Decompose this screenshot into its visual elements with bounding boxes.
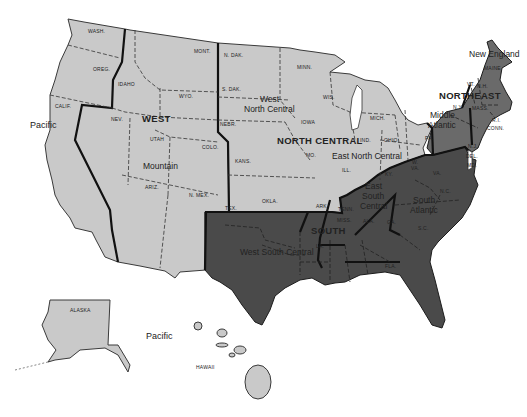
state-mo: MO. <box>306 153 316 158</box>
state-vt: VT. <box>467 82 475 87</box>
state-sc: S.C. <box>418 226 429 231</box>
state-fla: FLA. <box>385 264 396 269</box>
label-enc: East North Central <box>332 152 402 161</box>
kauai <box>194 322 202 330</box>
state-n-mex: N. MEX. <box>189 193 209 198</box>
state-nc: N.C. <box>440 189 451 194</box>
state-ohio: OHIO <box>384 138 398 143</box>
state-utah: UTAH <box>150 137 164 142</box>
state-va: VA. <box>433 171 441 176</box>
label-pacific-mainland: Pacific <box>30 121 57 130</box>
state-iowa: IOWA <box>301 120 315 125</box>
us-census-map <box>0 0 527 417</box>
label-ma-2: Atlantic <box>428 121 456 130</box>
state-la: LA. <box>316 244 324 249</box>
state-s-dak: S. DAK. <box>222 87 241 92</box>
state-mass: MASS. <box>472 106 489 111</box>
state-okla: OKLA. <box>262 199 278 204</box>
label-wnc-1: West <box>260 95 279 104</box>
state-mont: MONT. <box>194 49 211 54</box>
label-region-north-central: NORTH CENTRAL <box>277 136 363 146</box>
state-oreg: OREG. <box>93 67 110 72</box>
state-md: MD. <box>467 163 477 168</box>
state-pa: PA. <box>425 136 433 141</box>
oahu <box>217 329 227 337</box>
hawaii-island <box>245 365 271 399</box>
maui <box>234 346 246 354</box>
label-mountain: Mountain <box>143 162 178 171</box>
state-colo: COLO. <box>202 145 219 150</box>
state-ga: GA. <box>387 220 396 225</box>
label-region-west: WEST <box>142 114 171 124</box>
state-alaska: ALASKA <box>70 308 91 313</box>
state-del: DEL. <box>466 154 478 159</box>
state-ind: IND. <box>360 138 371 143</box>
state-ariz: ARIZ. <box>145 185 159 190</box>
state-nh: N.H. <box>477 84 488 89</box>
state-nj: N.J. <box>468 144 478 149</box>
molokai <box>216 343 228 347</box>
label-region-south: SOUTH <box>311 226 346 236</box>
state-ny: N.Y. <box>453 105 463 110</box>
state-nebr: NEBR. <box>220 122 236 127</box>
label-esc-1: East <box>365 182 382 191</box>
label-ma-1: Middle <box>430 111 455 120</box>
label-region-northeast: NORTHEAST <box>439 91 501 101</box>
label-pacific-offshore: Pacific <box>146 332 173 341</box>
state-nev: NEV. <box>111 117 123 122</box>
state-conn: CONN. <box>487 126 504 131</box>
aleutians <box>15 362 48 370</box>
state-ky: KY. <box>385 172 393 177</box>
state-miss: MISS. <box>337 218 352 223</box>
state-mich: MICH. <box>370 116 385 121</box>
state-tenn: TENN. <box>338 207 354 212</box>
label-new-england: New England <box>469 50 520 59</box>
label-sa-1: South <box>413 196 435 205</box>
state-wash: WASH. <box>88 29 105 34</box>
state-maine: MAINE <box>484 66 501 71</box>
state-wyo: WYO. <box>179 94 193 99</box>
state-calif: CALIF. <box>55 104 71 109</box>
state-ri: R.I. <box>492 118 501 123</box>
label-wnc-2: North Central <box>244 105 295 114</box>
state-ala: ALA. <box>363 219 375 224</box>
lanai <box>229 353 235 357</box>
state-n-dak: N. DAK. <box>224 53 243 58</box>
state-kans: KANS. <box>235 159 251 164</box>
state-wis: WIS. <box>323 95 335 100</box>
state-w-va-2: VA. <box>411 166 419 171</box>
state-tex: TEX. <box>225 206 237 211</box>
state-ill: ILL. <box>342 168 351 173</box>
state-idaho: IDAHO <box>118 82 135 87</box>
label-esc-2: South <box>362 192 384 201</box>
state-ark: ARK. <box>316 204 328 209</box>
state-minn: MINN. <box>297 65 312 70</box>
label-sa-2: Atlantic <box>410 206 438 215</box>
state-hawaii: HAWAII <box>196 365 215 370</box>
label-esc-3: Central <box>360 202 387 211</box>
label-wsc: West South Central <box>240 248 314 257</box>
